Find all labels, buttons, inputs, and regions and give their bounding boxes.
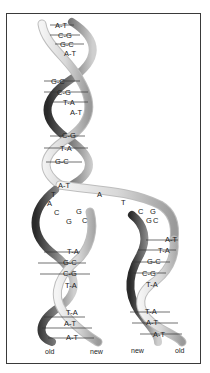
base-pair: T-A — [60, 144, 72, 153]
unpaired-base: C — [54, 208, 60, 217]
base-pair: G-C — [63, 258, 77, 267]
strand-label-new: new — [131, 347, 145, 354]
pairing-base: G — [76, 207, 82, 216]
base-pair: A-T — [153, 330, 166, 339]
base-pair: C-G — [62, 131, 76, 140]
unpaired-base: A — [47, 199, 52, 208]
base-pair: A-T — [64, 319, 77, 328]
pairing-base: C — [82, 216, 88, 225]
base-pair: A-T — [58, 181, 71, 190]
base-pair: A-T — [64, 49, 77, 58]
base-pair: T-A — [146, 280, 158, 289]
strand-label-new: new — [90, 348, 104, 355]
unpaired-base: T — [51, 190, 56, 199]
pairing-base: C — [153, 216, 159, 225]
base-pair: G-C — [60, 40, 74, 49]
base-pair: G-C — [51, 77, 65, 86]
strand-label-old: old — [45, 348, 54, 355]
base-pair: C-G — [57, 88, 71, 97]
base-pair: C-G — [63, 269, 77, 278]
unpaired-base: G — [66, 217, 72, 226]
base-pair: T-A — [63, 98, 75, 107]
base-pair: A-T — [70, 108, 83, 117]
base-pair: A-T — [165, 235, 178, 244]
base-pair: T-A — [158, 246, 170, 255]
unpaired-base: A — [97, 190, 102, 199]
base-pair: C-G — [58, 31, 72, 40]
unpaired-base: T — [121, 198, 126, 207]
base-pair: A-T — [55, 21, 68, 30]
base-pair: A-T — [146, 318, 159, 327]
base-pair: T-A — [67, 247, 79, 256]
pairing-base: G — [146, 216, 152, 225]
base-pair: C-G — [142, 269, 156, 278]
pairing-base: G — [150, 207, 156, 216]
base-pair: T-A — [65, 281, 77, 290]
base-pair: G-C — [147, 257, 161, 266]
base-pair: G-C — [55, 157, 69, 166]
strand-label-old: old — [175, 347, 184, 354]
base-pair: T-A — [66, 308, 78, 317]
pairing-base: C — [138, 207, 144, 216]
base-pair: A-T — [66, 333, 79, 342]
base-pair: T-A — [145, 307, 157, 316]
dna-replication-diagram: A-T C-G G-C A-T G-C C-G T-A A-T C-G T-A … — [0, 0, 210, 373]
